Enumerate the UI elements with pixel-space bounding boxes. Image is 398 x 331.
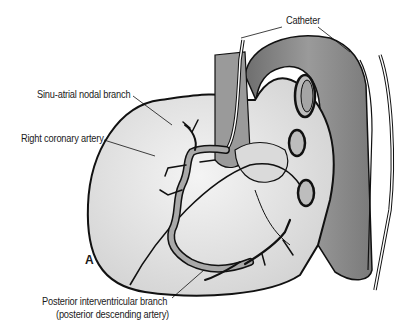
panel-label: A [85, 253, 94, 267]
label-right-coronary-artery: Right coronary artery [21, 132, 104, 144]
label-posterior-descending-artery: (posterior descending artery) [56, 308, 169, 320]
label-sinu-atrial-nodal-branch: Sinu-atrial nodal branch [37, 88, 130, 100]
label-catheter: Catheter [286, 14, 320, 26]
label-posterior-interventricular-branch: Posterior interventricular branch [42, 295, 167, 307]
heart-illustration [0, 0, 398, 331]
